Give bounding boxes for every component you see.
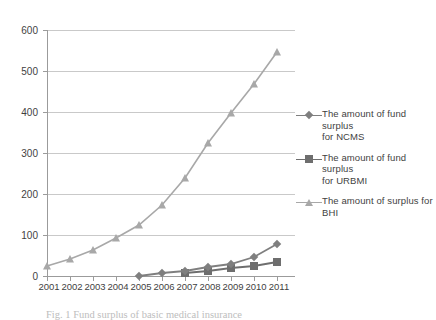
x-axis-labels: 2001 2002 2003 2004 2005 2006 2007 2008 … — [0, 281, 436, 295]
legend-key-ncms — [296, 109, 322, 122]
square-marker-icon — [305, 155, 313, 163]
y-axis-ticks — [43, 31, 47, 277]
legend-label-bhi: The amount of surplus for BHI — [322, 195, 433, 218]
gridlines — [47, 31, 295, 236]
x-tick-2002: 2002 — [61, 281, 82, 293]
y-tick-300: 300 — [4, 148, 38, 159]
legend-item-bhi: The amount of surplus for BHI — [296, 195, 436, 218]
diamond-marker-icon — [305, 111, 313, 119]
legend-label-ncms: The amount of fund surplus for NCMS — [322, 108, 436, 143]
x-tick-2001: 2001 — [38, 281, 59, 293]
chart-legend: The amount of fund surplus for NCMS The … — [296, 108, 436, 227]
x-tick-2003: 2003 — [84, 281, 105, 293]
y-tick-400: 400 — [4, 107, 38, 118]
legend-label-urbmi: The amount of fund surplus for URBMI — [322, 152, 436, 187]
x-tick-2007: 2007 — [176, 281, 197, 293]
legend-item-ncms: The amount of fund surplus for NCMS — [296, 108, 436, 143]
y-tick-100: 100 — [4, 230, 38, 241]
x-tick-2009: 2009 — [222, 281, 243, 293]
x-tick-2006: 2006 — [153, 281, 174, 293]
triangle-marker-icon — [305, 199, 313, 206]
series-bhi-markers — [43, 48, 281, 270]
y-tick-500: 500 — [4, 66, 38, 77]
series-bhi — [43, 48, 281, 270]
x-tick-2010: 2010 — [245, 281, 266, 293]
legend-key-bhi — [296, 196, 322, 209]
x-tick-2005: 2005 — [130, 281, 151, 293]
y-tick-0: 0 — [4, 271, 38, 282]
y-tick-600: 600 — [4, 25, 38, 36]
chart-figure: 600 500 400 300 200 100 0 2001 2002 2003… — [0, 0, 436, 320]
series-bhi-line — [47, 52, 277, 266]
figure-caption: Fig. 1 Fund surplus of basic medical ins… — [46, 309, 376, 320]
x-tick-2008: 2008 — [199, 281, 220, 293]
y-tick-200: 200 — [4, 189, 38, 200]
x-tick-2004: 2004 — [107, 281, 128, 293]
legend-item-urbmi: The amount of fund surplus for URBMI — [296, 152, 436, 187]
legend-key-urbmi — [296, 153, 322, 166]
x-tick-2011: 2011 — [269, 281, 289, 293]
